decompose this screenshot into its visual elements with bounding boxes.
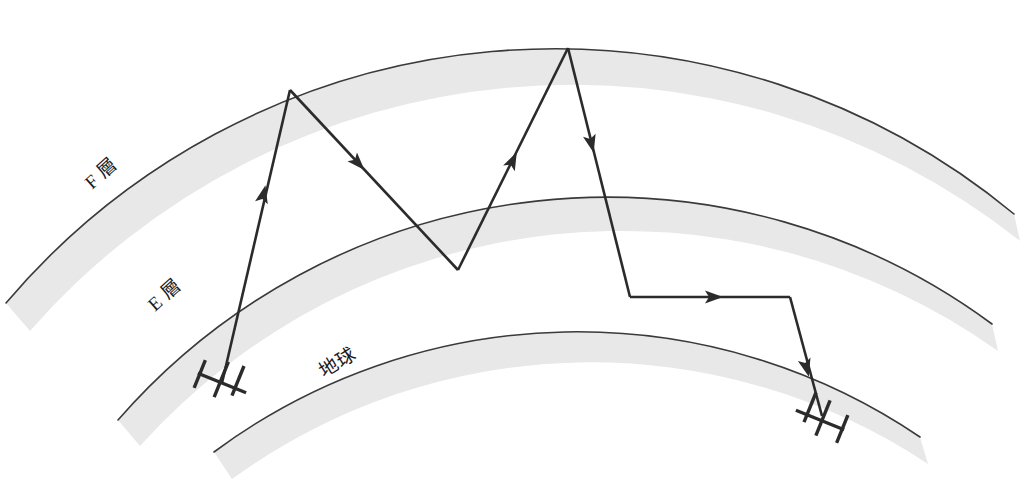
- label-e-layer: E 層: [144, 275, 185, 315]
- earth-group: [214, 332, 928, 479]
- ray-hop-2-up-arrow-icon: [503, 149, 523, 171]
- ionosphere-propagation-diagram: F 層 E 層 地球: [0, 0, 1024, 499]
- label-f-layer: F 層: [81, 153, 122, 193]
- diagram-canvas: F 層 E 層 地球: [0, 0, 1024, 499]
- ray-hop-2-down-arrow-icon: [583, 134, 600, 155]
- earth-band: [214, 332, 928, 479]
